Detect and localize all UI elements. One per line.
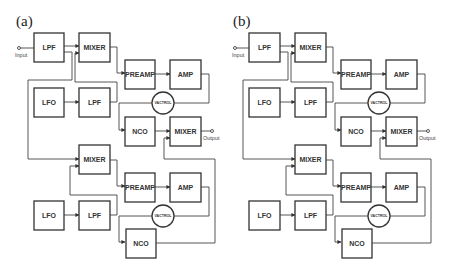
svg-text:LPF: LPF bbox=[258, 44, 272, 51]
block-mixer-top: MIXER bbox=[79, 33, 110, 62]
svg-text:AMP: AMP bbox=[178, 71, 194, 78]
svg-text:LFO: LFO bbox=[42, 212, 57, 219]
block-nco-bottom: NCO bbox=[342, 229, 372, 258]
block-lpf-input: LPF bbox=[249, 33, 280, 62]
block-lpf-bottom: LPF bbox=[79, 201, 110, 230]
svg-text:LFO: LFO bbox=[258, 99, 273, 106]
svg-text:PREAMP: PREAMP bbox=[341, 184, 371, 191]
svg-text:AMP: AMP bbox=[178, 184, 194, 191]
svg-text:LPF: LPF bbox=[88, 212, 102, 219]
svg-text:VACTROL: VACTROL bbox=[154, 101, 172, 105]
block-amp-bottom: AMP bbox=[386, 173, 417, 202]
svg-text:LPF: LPF bbox=[42, 44, 56, 51]
panel-label: (b) bbox=[233, 13, 251, 30]
svg-text:LFO: LFO bbox=[258, 212, 273, 219]
svg-text:LPF: LPF bbox=[88, 99, 102, 106]
input-terminal bbox=[18, 47, 21, 50]
block-mixer-output: MIXER bbox=[386, 117, 417, 146]
block-nco-top: NCO bbox=[341, 117, 371, 146]
svg-text:NCO: NCO bbox=[133, 240, 149, 247]
block-lfo-bottom: LFO bbox=[249, 201, 280, 230]
block-mixer-output: MIXER bbox=[170, 117, 201, 146]
output-terminal bbox=[427, 130, 430, 133]
svg-text:NCO: NCO bbox=[132, 128, 148, 135]
input-terminal bbox=[234, 47, 237, 50]
svg-text:MIXER: MIXER bbox=[174, 128, 196, 135]
block-lpf-top: LPF bbox=[295, 88, 326, 117]
svg-text:MIXER: MIXER bbox=[390, 128, 412, 135]
block-lfo-top: LFO bbox=[249, 88, 280, 117]
input-label: Input bbox=[15, 52, 28, 58]
block-amp-top: AMP bbox=[386, 60, 417, 89]
block-vactrol-bottom: VACTROL bbox=[368, 205, 390, 227]
block-preamp-top: PREAMP bbox=[341, 60, 371, 89]
block-preamp-bottom: PREAMP bbox=[341, 173, 371, 202]
panel-a: (a) bbox=[15, 13, 220, 258]
block-mixer-bottom: MIXER bbox=[295, 145, 326, 174]
block-lfo-top: LFO bbox=[34, 88, 64, 117]
panel-label: (a) bbox=[16, 13, 33, 30]
block-mixer-top: MIXER bbox=[295, 33, 326, 62]
panel-b: (b) Input Output LPF MIXER PRE bbox=[232, 13, 436, 258]
block-amp-bottom: AMP bbox=[170, 173, 201, 202]
block-preamp-top: PREAMP bbox=[125, 60, 155, 89]
svg-text:VACTROL: VACTROL bbox=[370, 101, 388, 105]
block-lfo-bottom: LFO bbox=[34, 201, 64, 230]
svg-text:PREAMP: PREAMP bbox=[125, 184, 155, 191]
svg-text:PREAMP: PREAMP bbox=[341, 71, 371, 78]
block-lpf-top: LPF bbox=[79, 88, 110, 117]
svg-text:NCO: NCO bbox=[349, 240, 365, 247]
block-lpf-input: LPF bbox=[34, 33, 64, 62]
block-vactrol-top: VACTROL bbox=[152, 92, 174, 114]
block-amp-top: AMP bbox=[170, 60, 201, 89]
svg-text:MIXER: MIXER bbox=[83, 156, 105, 163]
svg-text:LPF: LPF bbox=[304, 99, 318, 106]
block-vactrol-top: VACTROL bbox=[368, 92, 390, 114]
svg-text:MIXER: MIXER bbox=[299, 44, 321, 51]
output-terminal bbox=[211, 130, 214, 133]
block-vactrol-bottom: VACTROL bbox=[152, 205, 174, 227]
svg-text:VACTROL: VACTROL bbox=[154, 214, 172, 218]
svg-text:AMP: AMP bbox=[394, 71, 410, 78]
block-nco-bottom: NCO bbox=[126, 229, 156, 258]
block-lpf-bottom: LPF bbox=[295, 201, 326, 230]
svg-text:LPF: LPF bbox=[304, 212, 318, 219]
svg-text:AMP: AMP bbox=[394, 184, 410, 191]
svg-text:MIXER: MIXER bbox=[83, 44, 105, 51]
svg-text:LFO: LFO bbox=[42, 99, 57, 106]
svg-text:MIXER: MIXER bbox=[299, 156, 321, 163]
diagram-canvas: (a) bbox=[0, 0, 451, 271]
svg-text:VACTROL: VACTROL bbox=[370, 214, 388, 218]
svg-text:PREAMP: PREAMP bbox=[125, 71, 155, 78]
block-nco-top: NCO bbox=[125, 117, 155, 146]
block-mixer-bottom: MIXER bbox=[79, 145, 110, 174]
output-label: Output bbox=[419, 135, 436, 141]
output-label: Output bbox=[203, 135, 220, 141]
block-preamp-bottom: PREAMP bbox=[125, 173, 155, 202]
input-label: Input bbox=[232, 52, 245, 58]
svg-text:NCO: NCO bbox=[348, 128, 364, 135]
